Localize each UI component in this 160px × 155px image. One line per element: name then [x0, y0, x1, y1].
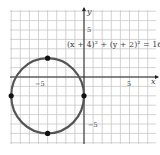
y-axis-label: y	[86, 7, 92, 16]
point-marker	[45, 131, 50, 136]
x-axis-label: x	[151, 77, 156, 86]
axes	[10, 7, 159, 144]
x-tick-label-5: 5	[127, 80, 131, 88]
point-marker	[9, 93, 14, 98]
point-marker	[81, 93, 86, 98]
equation-label: (x + 4)² + (y + 2)² = 16	[67, 40, 160, 49]
coordinate-plane: y x −5 5 5 −5 (x + 4)² + (y + 2)² = 16	[0, 0, 160, 155]
y-tick-label-neg5: −5	[88, 121, 98, 129]
y-tick-label-5: 5	[87, 26, 91, 34]
point-marker	[45, 56, 50, 61]
x-tick-label-neg5: −5	[35, 80, 45, 88]
